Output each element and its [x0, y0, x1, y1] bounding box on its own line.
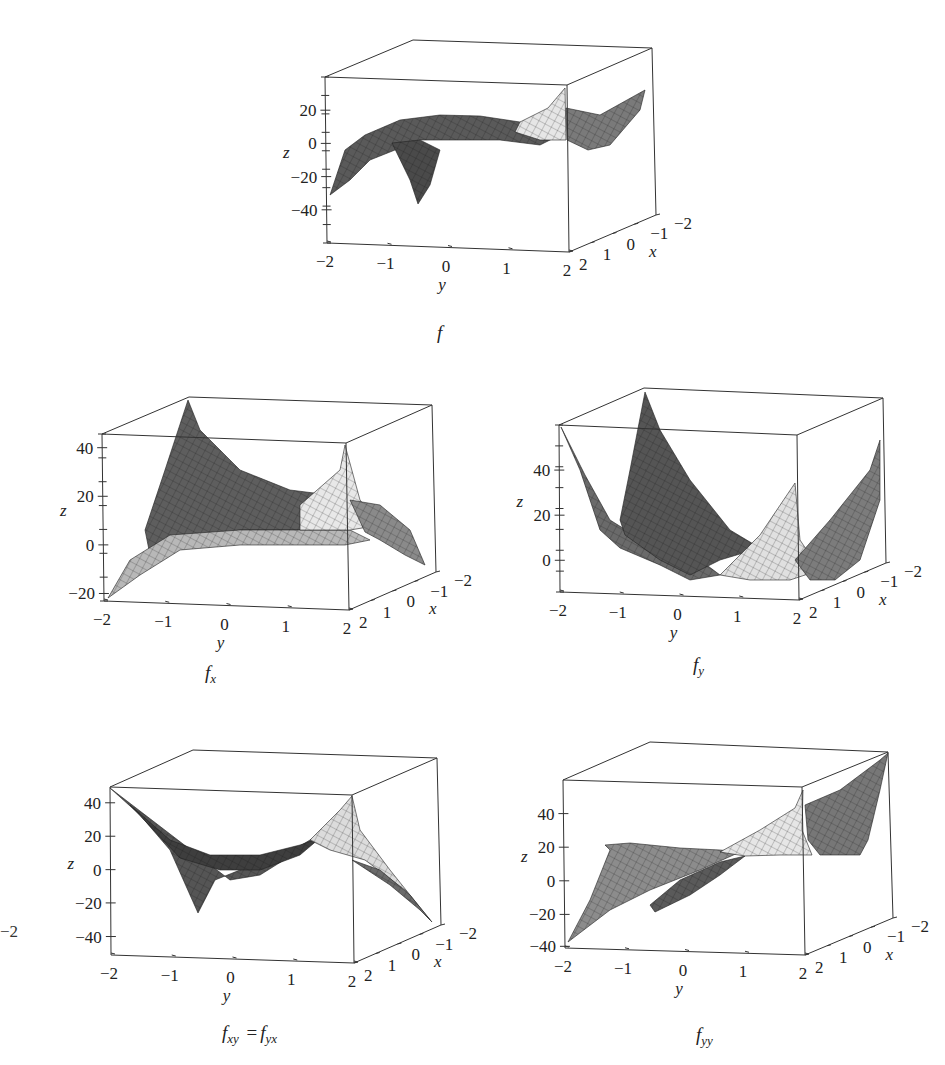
z-axis-label: z: [59, 501, 67, 520]
y-tick-label: 1: [282, 617, 291, 636]
x-tick-label: 1: [388, 956, 397, 975]
y-tick-label: 0: [220, 615, 229, 634]
z-tick-label: 20: [84, 827, 101, 846]
surface-mesh: [568, 843, 740, 942]
box-edge: [565, 948, 805, 955]
x-tick-label: 0: [857, 583, 866, 602]
y-tick-label: 1: [502, 259, 511, 278]
plot-fyy: 40200−20−40z−2−1012y210−1−2x: [520, 742, 929, 998]
x-tick-label: −1: [887, 927, 905, 946]
surface-mesh: [720, 790, 812, 856]
z-tick-label: −40: [529, 937, 556, 956]
box-edge: [559, 425, 797, 435]
y-tick-label: −1: [376, 254, 394, 273]
y-tick-label: 0: [673, 605, 682, 624]
box-edge: [325, 40, 413, 77]
y-axis-label: y: [215, 633, 225, 652]
z-tick-label: −40: [291, 201, 318, 220]
x-tick-label: 1: [603, 245, 612, 264]
y-axis-label: y: [221, 986, 231, 1005]
z-axis-label: z: [520, 847, 528, 866]
x-tick-label: 2: [815, 958, 824, 977]
caption-fy: fy: [693, 654, 704, 679]
y-tick-label: −1: [161, 966, 179, 985]
x-tick-label: 0: [863, 938, 872, 957]
y-tick-label: 1: [287, 970, 296, 989]
box-edge: [111, 955, 354, 963]
z-axis-label: z: [516, 492, 524, 511]
x-tick-label: 2: [359, 613, 368, 632]
caption-fyx-sub: yx: [266, 1031, 278, 1046]
box-edge: [110, 750, 193, 787]
y-axis-label: y: [668, 623, 678, 642]
caption-fx-sub: x: [210, 671, 216, 686]
x-tick-label: 2: [809, 603, 818, 622]
box-edge: [563, 742, 650, 780]
z-tick-label: 40: [537, 805, 554, 824]
figure-stage: 200−20−40z−2−1012y210−1−2x40200−20z−2−10…: [0, 0, 945, 1065]
y-tick-label: 1: [739, 962, 748, 981]
caption-fy-sub: y: [698, 663, 704, 678]
surface-mesh: [352, 860, 432, 922]
box-edge: [352, 758, 437, 795]
caption-f-main: f: [437, 322, 442, 343]
x-tick-label: −2: [454, 571, 472, 590]
y-tick-label: 0: [442, 257, 451, 276]
box-edge: [346, 405, 432, 443]
surface-mesh: [805, 753, 888, 855]
box-edge: [189, 397, 432, 405]
x-tick-label: −2: [911, 917, 929, 936]
z-tick-label: 0: [93, 861, 102, 880]
y-tick-label: 0: [679, 961, 688, 980]
y-tick-label: 2: [348, 972, 357, 991]
box-edge: [104, 601, 349, 610]
x-tick-label: 1: [833, 593, 842, 612]
caption-fyy-sub: yy: [701, 1033, 713, 1048]
surface-mesh: [566, 90, 645, 150]
x-tick-label: 2: [364, 966, 373, 985]
box-edge: [432, 405, 436, 572]
y-tick-label: 2: [563, 261, 572, 280]
y-tick-label: −2: [93, 610, 111, 629]
z-tick-label: −20: [529, 905, 556, 924]
box-edge: [888, 752, 893, 918]
x-tick-label: 0: [412, 945, 421, 964]
caption-fxy-sub: xy: [227, 1031, 239, 1046]
box-edge: [567, 48, 652, 85]
surface-mesh: [795, 440, 880, 580]
x-axis-label: x: [428, 599, 437, 618]
box-edge: [437, 758, 441, 925]
x-axis-label: x: [885, 945, 894, 964]
x-tick-label: 0: [407, 592, 416, 611]
caption-f: f: [437, 322, 442, 344]
caption-fxy: fxy =fyx: [222, 1022, 277, 1047]
z-tick-label: 20: [77, 487, 94, 506]
z-tick-label: −20: [75, 894, 102, 913]
box-edge: [325, 77, 327, 243]
box-edge: [110, 787, 111, 955]
x-tick-label: −2: [459, 924, 477, 943]
z-tick-label: 20: [299, 101, 316, 120]
plot-fx: 40200−20z−2−1012y210−1−2x: [59, 397, 472, 652]
y-axis-label: y: [673, 979, 683, 998]
x-tick-label: 1: [839, 948, 848, 967]
x-tick-label: 2: [579, 255, 588, 274]
y-tick-label: 1: [733, 607, 742, 626]
box-edge: [327, 243, 569, 252]
z-tick-label: −40: [75, 928, 102, 947]
y-tick-label: 2: [799, 964, 808, 983]
box-edge: [110, 787, 352, 795]
z-tick-label: 0: [86, 536, 95, 555]
z-axis-label: z: [67, 854, 75, 873]
y-tick-label: 0: [226, 968, 235, 987]
surface-mesh: [392, 140, 440, 204]
x-axis-label: x: [878, 590, 887, 609]
box-edge: [797, 398, 883, 435]
z-axis-label: z: [282, 143, 290, 162]
plot-fxy: 40200−20−40z−2−1012y210−1−2x: [67, 750, 478, 1005]
box-edge: [563, 780, 802, 787]
y-tick-label: −1: [154, 612, 172, 631]
box-edge: [563, 780, 565, 948]
box-edge: [644, 388, 883, 398]
x-tick-label: 1: [383, 603, 392, 622]
